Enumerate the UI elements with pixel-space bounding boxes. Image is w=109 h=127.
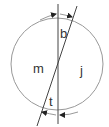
diagram-canvas: b m j t [0,0,109,127]
label-j: j [79,63,83,78]
arc-arrow-bottom-left [42,112,56,115]
circle [11,18,103,110]
arc-arrow-bottom-right [60,112,78,115]
label-t: t [49,94,53,109]
label-b: b [60,26,67,41]
arc-arrow-top-right [60,14,72,17]
label-m: m [33,61,44,76]
